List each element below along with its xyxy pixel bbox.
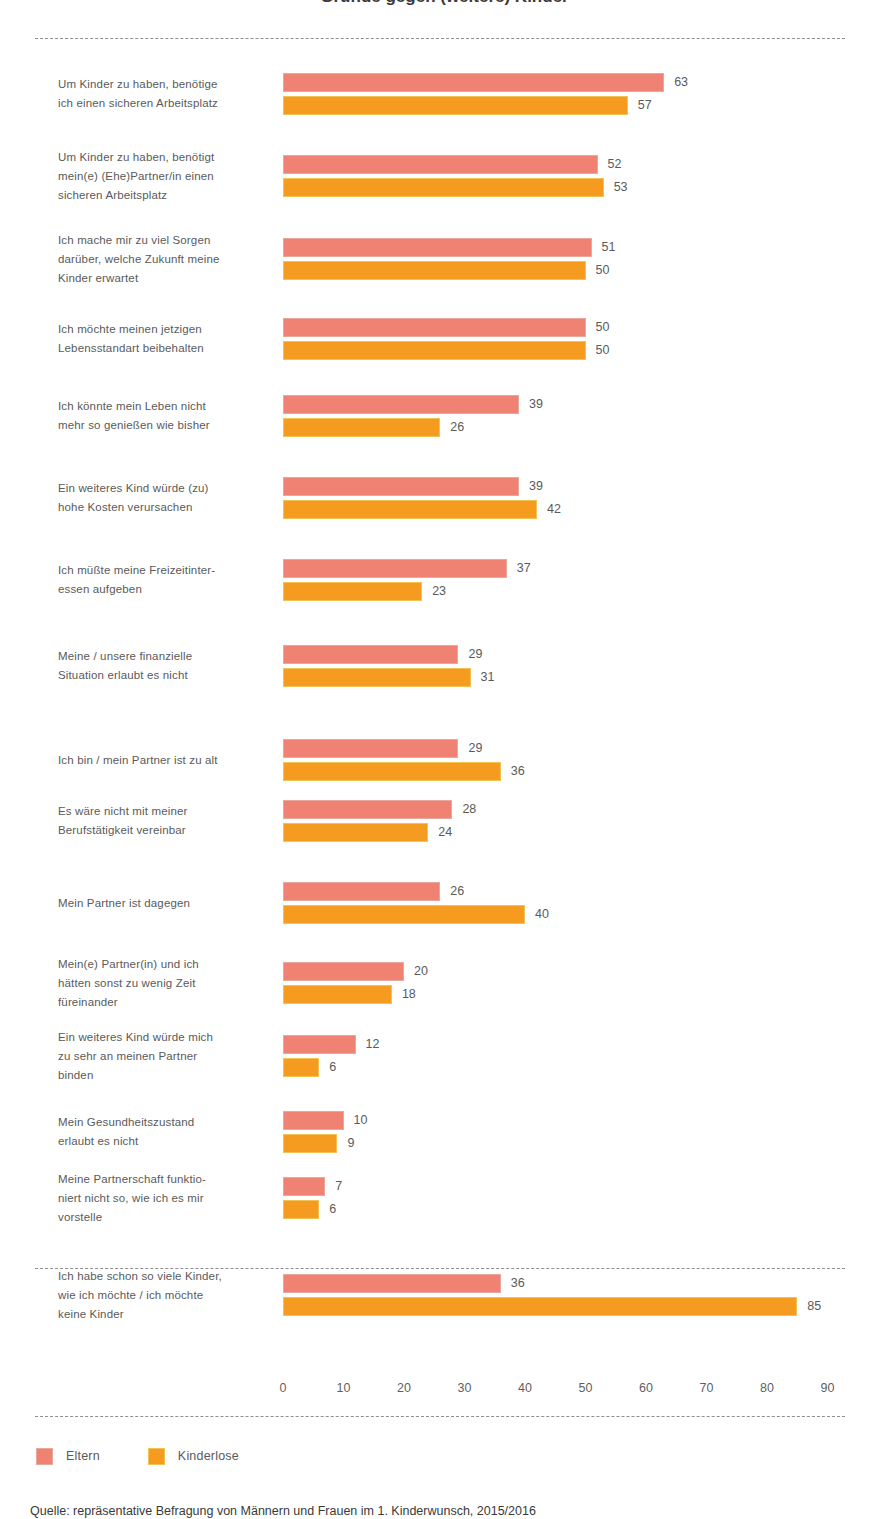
plot-area: Um Kinder zu haben, benötigeich einen si… (0, 0, 889, 1519)
category-label-line: vorstelle (58, 1208, 273, 1227)
category-label: Ich habe schon so viele Kinder,wie ich m… (58, 1267, 273, 1324)
chart-legend: ElternKinderlose (36, 1446, 287, 1466)
bar-eltern (283, 882, 440, 901)
category-label-line: keine Kinder (58, 1305, 273, 1324)
x-axis-tick: 60 (639, 1381, 653, 1395)
bar-eltern (283, 73, 664, 92)
category-label-line: hohe Kosten verursachen (58, 498, 273, 517)
category-label-line: Ich habe schon so viele Kinder, (58, 1267, 273, 1286)
bar-value-label: 29 (468, 739, 482, 758)
category-label-line: Lebensstandart beibehalten (58, 339, 273, 358)
category-label-line: Berufstätigkeit vereinbar (58, 821, 273, 840)
category-label-line: zu sehr an meinen Partner (58, 1047, 273, 1066)
bar-eltern (283, 395, 519, 414)
category-label: Mein(e) Partner(in) und ichhätten sonst … (58, 955, 273, 1012)
category-label-line: Ich bin / mein Partner ist zu alt (58, 751, 273, 770)
category-label: Ich müßte meine Freizeitinter-essen aufg… (58, 561, 273, 599)
bar-value-label: 51 (602, 238, 616, 257)
bar-value-label: 36 (511, 1274, 525, 1293)
bar-kinderlose (283, 668, 471, 687)
x-axis-tick: 0 (280, 1381, 287, 1395)
legend-swatch-icon (148, 1448, 165, 1465)
category-label-line: Ein weiteres Kind würde mich (58, 1028, 273, 1047)
x-axis-tick: 80 (760, 1381, 774, 1395)
category-label-line: binden (58, 1066, 273, 1085)
category-label: Mein Partner ist dagegen (58, 894, 273, 913)
bar-kinderlose (283, 582, 422, 601)
bar-eltern (283, 238, 592, 257)
category-label-line: Ich möchte meinen jetzigen (58, 320, 273, 339)
bar-value-label: 31 (481, 668, 495, 687)
x-axis-tick: 10 (337, 1381, 351, 1395)
category-label: Um Kinder zu haben, benötigeich einen si… (58, 75, 273, 113)
legend-label: Eltern (66, 1449, 100, 1463)
bar-eltern (283, 645, 458, 664)
category-label: Ich könnte mein Leben nichtmehr so genie… (58, 397, 273, 435)
legend-item: Kinderlose (148, 1448, 239, 1465)
category-label-line: Kinder erwartet (58, 269, 273, 288)
bar-eltern (283, 962, 404, 981)
bar-eltern (283, 1111, 344, 1130)
bar-value-label: 36 (511, 762, 525, 781)
category-label: Ich möchte meinen jetzigenLebensstandart… (58, 320, 273, 358)
bar-value-label: 39 (529, 395, 543, 414)
category-label-line: füreinander (58, 993, 273, 1012)
x-axis-tick: 70 (700, 1381, 714, 1395)
bar-eltern (283, 559, 507, 578)
bar-kinderlose (283, 500, 537, 519)
bar-eltern (283, 318, 586, 337)
category-label-line: Es wäre nicht mit meiner (58, 802, 273, 821)
category-label-line: Ein weiteres Kind würde (zu) (58, 479, 273, 498)
bar-value-label: 42 (547, 500, 561, 519)
bar-value-label: 52 (608, 155, 622, 174)
bar-value-label: 37 (517, 559, 531, 578)
bar-value-label: 6 (329, 1200, 336, 1219)
category-label-line: hätten sonst zu wenig Zeit (58, 974, 273, 993)
bar-value-label: 29 (468, 645, 482, 664)
category-label-line: Situation erlaubt es nicht (58, 666, 273, 685)
bar-value-label: 18 (402, 985, 416, 1004)
bar-eltern (283, 477, 519, 496)
category-label: Ich bin / mein Partner ist zu alt (58, 751, 273, 770)
bar-value-label: 9 (347, 1134, 354, 1153)
bar-kinderlose (283, 1058, 319, 1077)
bar-value-label: 53 (614, 178, 628, 197)
bar-value-label: 63 (674, 73, 688, 92)
bar-kinderlose (283, 341, 586, 360)
bar-value-label: 85 (807, 1297, 821, 1316)
bar-kinderlose (283, 1200, 319, 1219)
bar-value-label: 24 (438, 823, 452, 842)
x-axis-tick: 40 (518, 1381, 532, 1395)
bar-value-label: 20 (414, 962, 428, 981)
category-label-line: Ich mache mir zu viel Sorgen (58, 231, 273, 250)
bar-value-label: 10 (354, 1111, 368, 1130)
bar-kinderlose (283, 905, 525, 924)
category-label: Mein Gesundheitszustanderlaubt es nicht (58, 1113, 273, 1151)
bar-kinderlose (283, 418, 440, 437)
legend-item: Eltern (36, 1448, 100, 1465)
bar-kinderlose (283, 762, 501, 781)
category-label-line: Ich müßte meine Freizeitinter- (58, 561, 273, 580)
bar-value-label: 40 (535, 905, 549, 924)
x-axis-tick: 50 (579, 1381, 593, 1395)
category-label: Ein weiteres Kind würde michzu sehr an m… (58, 1028, 273, 1085)
category-label-line: niert nicht so, wie ich es mir (58, 1189, 273, 1208)
bar-eltern (283, 800, 452, 819)
bar-value-label: 57 (638, 96, 652, 115)
category-label: Ein weiteres Kind würde (zu)hohe Kosten … (58, 479, 273, 517)
bar-value-label: 23 (432, 582, 446, 601)
bar-kinderlose (283, 823, 428, 842)
chart-page: Gründe gegen (weitere) Kinder Um Kinder … (0, 0, 889, 1519)
bar-value-label: 50 (596, 261, 610, 280)
bar-eltern (283, 739, 458, 758)
category-label: Meine Partnerschaft funktio-niert nicht … (58, 1170, 273, 1227)
bar-value-label: 7 (335, 1177, 342, 1196)
category-label-line: darüber, welche Zukunft meine (58, 250, 273, 269)
category-label-line: wie ich möchte / ich möchte (58, 1286, 273, 1305)
category-label-line: Um Kinder zu haben, benötige (58, 75, 273, 94)
bar-value-label: 12 (366, 1035, 380, 1054)
category-label-line: mehr so genießen wie bisher (58, 416, 273, 435)
x-axis-tick: 90 (821, 1381, 835, 1395)
category-label-line: mein(e) (Ehe)Partner/in einen (58, 167, 273, 186)
legend-swatch-icon (36, 1448, 53, 1465)
